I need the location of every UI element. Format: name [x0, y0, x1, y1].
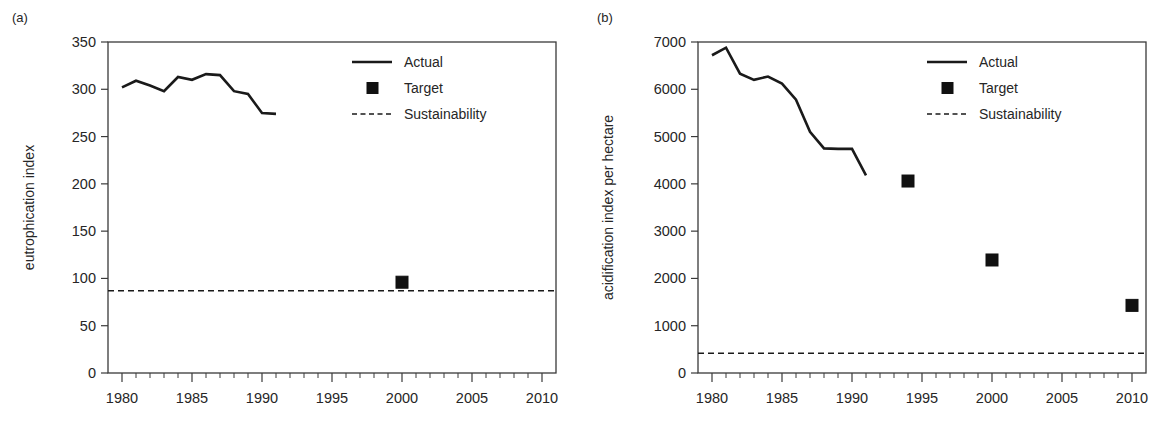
y-tick-label: 0 — [678, 365, 686, 381]
figure-two-panel-chart: (a)0501001502002503003501980198519901995… — [0, 0, 1170, 427]
y-tick-label: 3000 — [654, 223, 686, 239]
legend-label-sustainability: Sustainability — [979, 106, 1062, 122]
x-tick-label: 1985 — [766, 390, 798, 406]
y-tick-label: 150 — [72, 223, 96, 239]
series-target-marker — [1126, 299, 1138, 311]
panel-label: (a) — [12, 10, 28, 25]
legend: ActualTargetSustainability — [927, 54, 1062, 122]
chart-panel-a: (a)0501001502002503003501980198519901995… — [0, 0, 585, 427]
y-tick-label: 0 — [88, 365, 96, 381]
y-tick-label: 200 — [72, 176, 96, 192]
y-tick-label: 5000 — [654, 129, 686, 145]
x-tick-label: 1995 — [906, 390, 938, 406]
x-tick-label: 1990 — [246, 390, 278, 406]
legend-label-actual: Actual — [404, 54, 443, 70]
x-tick-label: 1985 — [176, 390, 208, 406]
legend-label-sustainability: Sustainability — [404, 106, 487, 122]
y-tick-label: 1000 — [654, 318, 686, 334]
legend-swatch-target — [942, 83, 953, 94]
y-tick-label: 2000 — [654, 270, 686, 286]
plot-area: (b)0100020003000400050006000700019801985… — [585, 0, 1170, 427]
legend: ActualTargetSustainability — [352, 54, 487, 122]
y-tick-label: 300 — [72, 81, 96, 97]
x-tick-label: 2000 — [976, 390, 1008, 406]
y-axis-title: acidification index per hectare — [600, 115, 616, 300]
y-tick-label: 4000 — [654, 176, 686, 192]
x-tick-label: 1995 — [316, 390, 348, 406]
legend-label-target: Target — [979, 80, 1018, 96]
y-tick-label: 6000 — [654, 81, 686, 97]
x-tick-label: 1980 — [106, 390, 138, 406]
y-axis-title: eutrophication index — [21, 145, 37, 270]
x-tick-label: 1980 — [696, 390, 728, 406]
series-target-marker — [986, 254, 998, 266]
plot-frame — [698, 42, 1146, 373]
y-tick-label: 7000 — [654, 34, 686, 50]
y-tick-label: 50 — [80, 318, 96, 334]
y-tick-label: 350 — [72, 34, 96, 50]
plot-frame — [108, 42, 556, 373]
x-tick-label: 2010 — [526, 390, 558, 406]
x-tick-label: 2000 — [386, 390, 418, 406]
series-actual-line — [122, 74, 276, 114]
legend-label-actual: Actual — [979, 54, 1018, 70]
x-tick-label: 2005 — [456, 390, 488, 406]
x-tick-label: 2005 — [1046, 390, 1078, 406]
y-tick-label: 100 — [72, 270, 96, 286]
series-actual-line — [712, 48, 866, 176]
x-tick-label: 2010 — [1116, 390, 1148, 406]
x-tick-label: 1990 — [836, 390, 868, 406]
y-tick-label: 250 — [72, 129, 96, 145]
chart-panel-b: (b)0100020003000400050006000700019801985… — [585, 0, 1170, 427]
series-target-marker — [396, 276, 408, 288]
legend-label-target: Target — [404, 80, 443, 96]
panel-label: (b) — [597, 10, 613, 25]
plot-area: (a)0501001502002503003501980198519901995… — [0, 0, 585, 427]
series-target-marker — [902, 175, 914, 187]
legend-swatch-target — [367, 83, 378, 94]
